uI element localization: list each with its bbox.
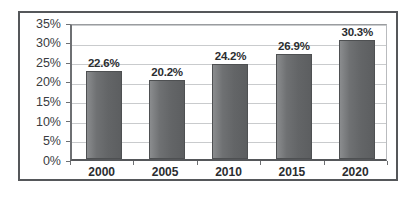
x-axis-category-label: 2020: [342, 165, 369, 179]
y-axis-tick-label: 10%: [36, 116, 66, 129]
bar[interactable]: 30.3%: [339, 40, 375, 159]
bar-value-label: 22.6%: [88, 57, 120, 69]
y-axis-tick-label: 15%: [36, 96, 66, 109]
y-axis: 0%5%10%15%20%25%30%35%: [20, 24, 70, 161]
bar-slot: 20.2%: [135, 25, 198, 159]
x-axis: 20002005201020152020: [70, 161, 387, 179]
plot-area: 22.6%20.2%24.2%26.9%30.3%: [70, 24, 387, 161]
bar-value-label: 30.3%: [341, 26, 373, 38]
bar-value-label: 26.9%: [278, 40, 310, 52]
x-axis-tick-mark: [70, 161, 71, 165]
chart-frame: 0%5%10%15%20%25%30%35% 22.6%20.2%24.2%26…: [18, 11, 398, 181]
x-axis-category-label: 2010: [215, 165, 242, 179]
x-axis-category-label: 2005: [152, 165, 179, 179]
y-axis-tick-label: 5%: [43, 135, 66, 148]
bar-slot: 26.9%: [262, 25, 325, 159]
y-axis-tick-label: 0%: [43, 155, 66, 168]
x-axis-tick-mark: [324, 161, 325, 165]
bar-slot: 30.3%: [326, 25, 389, 159]
y-axis-tick-label: 30%: [36, 37, 66, 50]
bar[interactable]: 24.2%: [212, 64, 248, 159]
bar[interactable]: 20.2%: [149, 80, 185, 159]
bar[interactable]: 26.9%: [276, 54, 312, 159]
y-axis-tick-label: 25%: [36, 57, 66, 70]
y-axis-tick-label: 20%: [36, 76, 66, 89]
bar-slot: 24.2%: [199, 25, 262, 159]
bar-chart: 0%5%10%15%20%25%30%35% 22.6%20.2%24.2%26…: [20, 13, 396, 179]
bar[interactable]: 22.6%: [86, 71, 122, 159]
x-axis-tick-mark: [387, 161, 388, 165]
x-axis-tick-mark: [197, 161, 198, 165]
x-axis-tick-mark: [133, 161, 134, 165]
bar-value-label: 24.2%: [215, 50, 247, 62]
bar-slot: 22.6%: [72, 25, 135, 159]
y-axis-tick-label: 35%: [36, 18, 66, 31]
x-axis-category-label: 2015: [279, 165, 306, 179]
bars-layer: 22.6%20.2%24.2%26.9%30.3%: [72, 25, 386, 159]
bar-value-label: 20.2%: [151, 66, 183, 78]
x-axis-tick-mark: [260, 161, 261, 165]
x-axis-category-label: 2000: [88, 165, 115, 179]
